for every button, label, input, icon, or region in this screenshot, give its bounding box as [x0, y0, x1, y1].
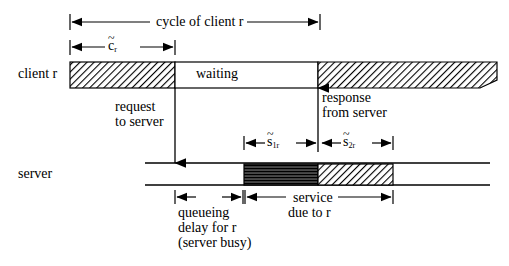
- measure-label-s-tilde-2r: ~s2r: [341, 135, 357, 150]
- annotation-queueing-line3: (server busy): [178, 235, 251, 250]
- timing-diagram-figure: client r server cycle of client r ~cr wa…: [0, 0, 509, 266]
- measure-label-cycle-of-client-r: cycle of client r: [152, 14, 247, 29]
- annotation-service-line1-wrap: service: [290, 190, 336, 205]
- annotation-queueing-line1: queueing: [178, 205, 251, 220]
- measure-queueing-delay: [175, 190, 243, 204]
- annotation-service-line1: service: [293, 190, 333, 205]
- annotation-queueing-line2: delay for r: [178, 220, 251, 235]
- server-busy-blocks: [244, 164, 393, 185]
- client-segment-compute-after: [318, 62, 497, 88]
- annotation-request-line2: to server: [115, 114, 164, 129]
- axis-label-server: server: [18, 166, 52, 181]
- annotation-request: request to server: [115, 99, 164, 129]
- tilde-accent-c: ~: [108, 32, 114, 44]
- server-segment-service-part-2: [318, 164, 393, 185]
- annotation-response-line2: from server: [322, 105, 387, 120]
- annotation-service-line2: due to r: [288, 205, 331, 220]
- client-segment-waiting-label: waiting: [196, 66, 238, 81]
- measure-label-c-tilde-r: ~cr: [105, 39, 120, 54]
- measure-label-s-tilde-1r: ~s1r: [265, 135, 281, 150]
- client-segment-compute-before: [70, 62, 175, 88]
- measure-s-tilde-2r: [322, 136, 393, 150]
- tilde-accent-s1: ~: [267, 128, 272, 140]
- server-segment-service-part-1: [244, 164, 318, 185]
- annotation-response-line1: response: [322, 90, 387, 105]
- annotation-response: response from server: [322, 90, 387, 120]
- tilde-accent-s2: ~: [343, 128, 348, 140]
- axis-label-client: client r: [18, 66, 57, 81]
- annotation-request-line1: request: [115, 99, 164, 114]
- client-timeline-bar: [70, 62, 497, 88]
- measure-c-tilde-r: [70, 40, 175, 55]
- diagram-canvas: [0, 0, 509, 266]
- annotation-queueing-delay: queueing delay for r (server busy): [178, 205, 251, 250]
